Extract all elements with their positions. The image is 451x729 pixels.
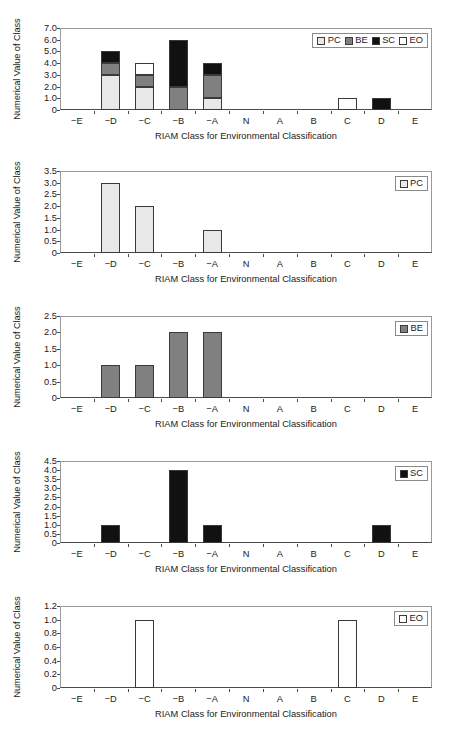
x-tick-label-pc-2: −C <box>138 259 150 269</box>
x-tick-mark-pc-9 <box>398 254 399 257</box>
bar-segment-combined-1-be <box>101 63 120 75</box>
legend-item-pc[interactable]: PC <box>317 36 340 45</box>
y-tick-mark-sc-8 <box>57 470 60 471</box>
bar-segment-pc-1-pc <box>101 183 120 253</box>
y-tick-label-combined-6: 6.0 <box>30 35 57 45</box>
y-tick-label-eo-2: 0.4 <box>30 656 57 666</box>
legend-item-be[interactable]: BE <box>400 324 423 333</box>
legend-item-sc[interactable]: SC <box>372 36 395 45</box>
legend-swatch-be-icon <box>345 37 353 45</box>
y-tick-label-combined-2: 2.0 <box>30 82 57 92</box>
x-tick-label-be-7: B <box>311 404 317 414</box>
x-tick-mark-eo-4 <box>229 689 230 692</box>
y-tick-mark-combined-6 <box>57 40 60 41</box>
bar-combined-9 <box>372 98 391 110</box>
plot-area-eo <box>60 606 432 688</box>
legend-item-pc[interactable]: PC <box>400 179 423 188</box>
legend-item-be[interactable]: BE <box>345 36 368 45</box>
y-tick-mark-sc-3 <box>57 516 60 517</box>
bar-eo-2 <box>135 620 154 688</box>
x-tick-label-be-5: N <box>243 404 250 414</box>
bar-eo-8 <box>338 620 357 688</box>
chart-panel-sc: Numerical Value of Class00.51.01.52.02.5… <box>0 445 451 590</box>
bar-segment-combined-2-eo <box>135 63 154 75</box>
x-axis-title-combined: RIAM Class for Environmental Classificat… <box>60 131 432 141</box>
bar-segment-combined-4-be <box>203 75 222 98</box>
x-tick-mark-be-1 <box>128 399 129 402</box>
bar-segment-combined-9-sc <box>372 98 391 110</box>
x-axis-title-eo: RIAM Class for Environmental Classificat… <box>60 709 432 719</box>
x-tick-label-eo-5: N <box>243 694 250 704</box>
x-tick-mark-combined-4 <box>229 111 230 114</box>
legend-be[interactable]: BE <box>395 321 428 336</box>
legend-item-eo[interactable]: EO <box>399 36 423 45</box>
x-tick-label-be-4: −A <box>206 404 218 414</box>
x-tick-mark-sc-9 <box>398 544 399 547</box>
bar-be-2 <box>135 365 154 398</box>
y-tick-mark-pc-0 <box>57 253 60 254</box>
y-tick-mark-be-3 <box>57 349 60 350</box>
x-tick-mark-combined-1 <box>128 111 129 114</box>
x-tick-mark-sc-4 <box>229 544 230 547</box>
x-tick-mark-sc-3 <box>195 544 196 547</box>
x-tick-mark-eo-2 <box>161 689 162 692</box>
y-tick-label-combined-0: 0 <box>30 105 57 115</box>
y-tick-mark-sc-4 <box>57 507 60 508</box>
bar-segment-sc-3-sc <box>169 470 188 543</box>
x-tick-mark-eo-3 <box>195 689 196 692</box>
legend-combined[interactable]: PCBESCEO <box>312 33 428 48</box>
y-tick-label-pc-1: 0.5 <box>30 236 57 246</box>
x-tick-mark-pc-4 <box>229 254 230 257</box>
legend-swatch-sc-icon <box>400 470 408 478</box>
y-tick-label-combined-4: 4.0 <box>30 58 57 68</box>
x-tick-mark-eo-6 <box>297 689 298 692</box>
x-tick-mark-sc-5 <box>263 544 264 547</box>
x-tick-label-eo-8: C <box>344 694 351 704</box>
x-tick-label-be-8: C <box>344 404 351 414</box>
x-tick-mark-be-3 <box>195 399 196 402</box>
y-tick-mark-eo-6 <box>57 606 60 607</box>
y-tick-label-be-4: 2.0 <box>30 327 57 337</box>
y-tick-mark-sc-5 <box>57 497 60 498</box>
y-tick-mark-combined-2 <box>57 87 60 88</box>
legend-pc[interactable]: PC <box>395 176 428 191</box>
legend-label-pc: PC <box>328 36 341 45</box>
x-tick-label-be-6: A <box>277 404 283 414</box>
x-tick-mark-be-5 <box>263 399 264 402</box>
bar-segment-be-4-be <box>203 332 222 398</box>
x-tick-mark-combined-2 <box>161 111 162 114</box>
bar-segment-sc-1-sc <box>101 525 120 543</box>
x-tick-mark-pc-1 <box>128 254 129 257</box>
legend-item-eo[interactable]: EO <box>399 614 423 623</box>
y-tick-label-pc-2: 1.0 <box>30 225 57 235</box>
bar-segment-be-2-be <box>135 365 154 398</box>
x-tick-mark-be-7 <box>331 399 332 402</box>
bar-sc-3 <box>169 470 188 543</box>
y-tick-mark-pc-6 <box>57 183 60 184</box>
legend-eo[interactable]: EO <box>394 611 428 626</box>
bar-segment-combined-2-pc <box>135 87 154 110</box>
x-tick-label-be-3: −B <box>173 404 185 414</box>
x-tick-mark-pc-3 <box>195 254 196 257</box>
y-tick-label-sc-2: 1.0 <box>30 520 57 530</box>
bar-combined-1 <box>101 51 120 110</box>
x-tick-label-be-0: −E <box>71 404 83 414</box>
y-axis-title-combined: Numerical Value of Class <box>12 14 26 124</box>
legend-label-pc: PC <box>410 179 423 188</box>
legend-sc[interactable]: SC <box>395 466 428 481</box>
x-tick-mark-eo-1 <box>128 689 129 692</box>
legend-label-sc: SC <box>382 36 395 45</box>
x-tick-mark-pc-8 <box>364 254 365 257</box>
legend-item-sc[interactable]: SC <box>400 469 423 478</box>
y-tick-label-sc-4: 2.0 <box>30 502 57 512</box>
y-tick-mark-pc-7 <box>57 171 60 172</box>
x-tick-label-pc-9: D <box>378 259 385 269</box>
y-tick-mark-sc-7 <box>57 479 60 480</box>
x-tick-label-sc-8: C <box>344 549 351 559</box>
x-tick-mark-combined-9 <box>398 111 399 114</box>
x-tick-mark-be-6 <box>297 399 298 402</box>
x-tick-label-pc-5: N <box>243 259 250 269</box>
x-tick-label-eo-3: −B <box>173 694 185 704</box>
x-tick-label-sc-0: −E <box>71 549 83 559</box>
x-tick-mark-pc-5 <box>263 254 264 257</box>
